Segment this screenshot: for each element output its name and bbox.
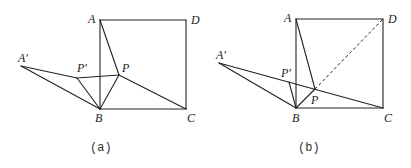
segment-P-Pp [77, 75, 119, 78]
point-label-C: C [187, 111, 196, 125]
point-label-Ap: A′ [215, 48, 226, 62]
segment-P-C [119, 75, 186, 109]
point-label-A: A [283, 11, 292, 25]
segment-P-B [100, 75, 119, 109]
segment-Ap-B [21, 66, 100, 109]
point-label-P: P [310, 93, 319, 107]
segment-Pp-Ap [21, 66, 77, 78]
point-label-A: A [87, 12, 96, 26]
figure-caption: (a) [90, 141, 112, 155]
point-label-Pp: P′ [76, 61, 87, 75]
segment-A-P [296, 19, 315, 89]
segment-Ap-C [219, 63, 383, 108]
geometry-diagram: ADBCPP′A′(a) ADBCPP′A′(b) [0, 0, 411, 168]
point-label-D: D [387, 12, 397, 26]
point-label-D: D [190, 13, 200, 27]
segment-A-P [100, 20, 119, 75]
point-label-Ap: A′ [17, 51, 28, 65]
point-label-B: B [95, 111, 103, 125]
point-label-P: P [121, 61, 130, 75]
figure-caption: (b) [298, 141, 320, 155]
point-label-Pp: P′ [280, 66, 291, 80]
figure-b: ADBCPP′A′(b) [215, 11, 397, 155]
figure-a: ADBCPP′A′(a) [17, 12, 200, 155]
dashed-segment-P-D [315, 19, 383, 89]
segment-Pp-B [77, 78, 100, 109]
point-label-B: B [292, 111, 300, 125]
point-label-C: C [384, 111, 393, 125]
